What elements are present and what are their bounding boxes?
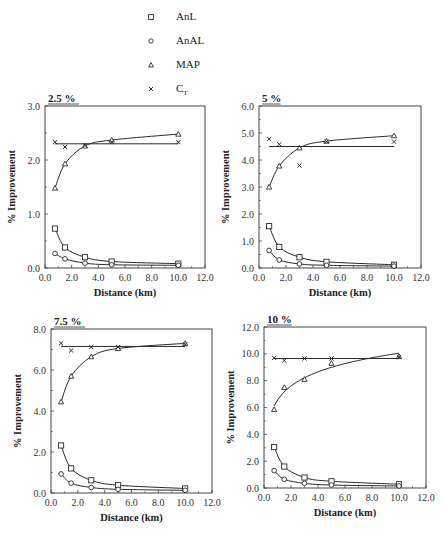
x-axis-title: Distance (km) bbox=[314, 507, 377, 519]
cross-marker bbox=[59, 341, 63, 345]
y-tick-label: 6.0 bbox=[242, 101, 255, 112]
series-map bbox=[58, 341, 187, 404]
triangle-marker bbox=[52, 185, 57, 190]
series-anal bbox=[59, 472, 188, 493]
triangle-marker bbox=[329, 361, 334, 366]
circle-marker bbox=[329, 483, 334, 488]
x-axis-title: Distance (km) bbox=[309, 287, 372, 299]
cross-marker bbox=[272, 356, 276, 360]
y-tick-label: 2.0 bbox=[242, 209, 255, 220]
panel-title: 5 % bbox=[262, 92, 281, 104]
y-tick-label: 1.0 bbox=[28, 209, 41, 220]
square-marker bbox=[282, 464, 287, 469]
square-marker bbox=[277, 244, 282, 249]
x-tick-label: 8.0 bbox=[145, 272, 158, 283]
square-marker bbox=[58, 443, 63, 448]
cross-marker bbox=[89, 345, 93, 349]
x-tick-label: 12.0 bbox=[417, 492, 435, 503]
circle-marker bbox=[109, 262, 114, 267]
x-tick-label: 6.0 bbox=[339, 492, 352, 503]
y-tick-label: 8.0 bbox=[34, 324, 47, 335]
y-tick-label: 2.0 bbox=[247, 456, 260, 467]
x-tick-label: 4.0 bbox=[307, 272, 320, 283]
y-tick-label: 8.0 bbox=[247, 375, 260, 386]
y-axis-title: % Improvement bbox=[12, 373, 23, 448]
x-tick-label: 12.0 bbox=[203, 497, 221, 508]
square-marker bbox=[302, 475, 307, 480]
x-tick-label: 4.0 bbox=[98, 497, 111, 508]
circle-marker bbox=[324, 263, 329, 268]
triangle-marker bbox=[282, 385, 287, 390]
x-tick-label: 8.0 bbox=[361, 272, 374, 283]
x-tick-label: 4.0 bbox=[92, 272, 105, 283]
circle-marker bbox=[267, 248, 272, 253]
triangle-marker bbox=[58, 399, 63, 404]
circle-marker bbox=[89, 485, 94, 490]
x-tick-label: 0.0 bbox=[258, 492, 271, 503]
x-tick-label: 6.0 bbox=[334, 272, 347, 283]
square-marker bbox=[62, 245, 67, 250]
x-tick-label: 6.0 bbox=[125, 497, 138, 508]
cross-marker bbox=[392, 140, 396, 144]
y-tick-label: 3.0 bbox=[242, 182, 255, 193]
circle-marker bbox=[63, 256, 68, 261]
y-tick-label: 0.0 bbox=[34, 488, 47, 499]
panel-7_5-percent: 7.5 %0.02.04.06.08.010.012.00.02.04.06.0… bbox=[12, 315, 221, 524]
x-axis-title: Distance (km) bbox=[94, 287, 157, 299]
circle-marker bbox=[53, 251, 58, 256]
x-tick-label: 0.0 bbox=[45, 497, 58, 508]
y-tick-label: 4.0 bbox=[247, 429, 260, 440]
series-ct bbox=[53, 140, 180, 149]
fit-curve bbox=[274, 447, 399, 484]
triangle-marker bbox=[267, 184, 272, 189]
triangle-marker bbox=[272, 407, 277, 412]
y-tick-label: 0.0 bbox=[242, 263, 255, 274]
circle-marker bbox=[277, 258, 282, 263]
series-map bbox=[272, 353, 402, 411]
circle-marker bbox=[272, 468, 277, 473]
square-marker bbox=[267, 224, 272, 229]
y-tick-label: 10.0 bbox=[242, 348, 260, 359]
x-tick-label: 8.0 bbox=[366, 492, 379, 503]
circle-marker bbox=[297, 262, 302, 267]
y-tick-label: 12.0 bbox=[242, 322, 260, 333]
cross-marker bbox=[69, 348, 73, 352]
series-anl bbox=[272, 444, 402, 486]
fit-curve bbox=[55, 134, 178, 188]
figure: 2.5 %0.02.04.06.08.010.012.00.01.02.03.0… bbox=[0, 0, 446, 533]
circle-marker bbox=[83, 261, 88, 266]
plot-frame bbox=[51, 329, 212, 493]
x-tick-label: 6.0 bbox=[119, 272, 132, 283]
triangle-marker bbox=[297, 145, 302, 150]
circle-marker bbox=[302, 481, 307, 486]
x-tick-label: 12.0 bbox=[412, 272, 430, 283]
circle-marker bbox=[282, 477, 287, 482]
y-tick-label: 4.0 bbox=[34, 406, 47, 417]
panel-title: 2.5 % bbox=[48, 92, 76, 104]
square-marker bbox=[69, 466, 74, 471]
panel-5-percent: 5 %0.02.04.06.08.010.012.00.01.02.03.04.… bbox=[220, 92, 430, 299]
cross-marker bbox=[277, 142, 281, 146]
fit-curve bbox=[269, 136, 394, 187]
fit-curve bbox=[61, 445, 185, 488]
square-marker bbox=[272, 444, 277, 449]
plot-frame bbox=[45, 106, 205, 268]
x-axis-title: Distance (km) bbox=[100, 512, 163, 524]
y-axis-title: % Improvement bbox=[225, 370, 236, 445]
circle-marker bbox=[392, 264, 397, 269]
x-tick-label: 2.0 bbox=[65, 272, 78, 283]
series-anl bbox=[267, 224, 397, 268]
circle-marker bbox=[69, 481, 74, 486]
circle-marker bbox=[176, 263, 181, 268]
y-tick-label: 0.0 bbox=[28, 263, 41, 274]
x-tick-label: 10.0 bbox=[385, 272, 403, 283]
plot-frame bbox=[264, 327, 426, 488]
triangle-marker bbox=[89, 354, 94, 359]
x-tick-label: 10.0 bbox=[170, 272, 188, 283]
square-marker bbox=[89, 478, 94, 483]
plot-frame bbox=[259, 106, 421, 268]
x-tick-label: 10.0 bbox=[390, 492, 408, 503]
x-tick-label: 2.0 bbox=[285, 492, 298, 503]
y-axis-title: % Improvement bbox=[6, 149, 17, 224]
y-tick-label: 6.0 bbox=[247, 402, 260, 413]
